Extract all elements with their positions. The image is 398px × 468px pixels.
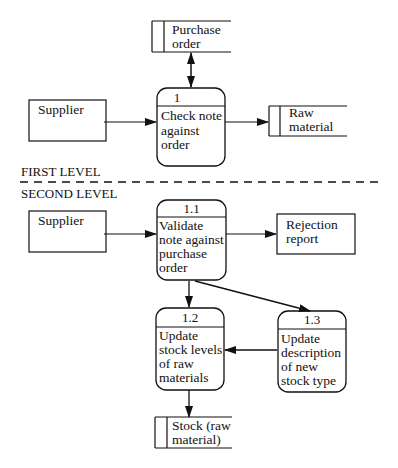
- store-purchase-order-label-2: order: [172, 37, 200, 51]
- process-1-1-line-1: Validate: [159, 219, 203, 233]
- entity-rejection-report-label-1: Rejection: [286, 218, 338, 232]
- process-1-2-line-3: of raw: [159, 357, 194, 371]
- store-stock-label-2: material): [172, 433, 221, 447]
- entity-rejection-report-label-2: report: [286, 232, 318, 246]
- process-1-1-line-3: purchase: [159, 247, 207, 261]
- process-1-3-line-2: description: [281, 346, 341, 360]
- process-1-3-line-1: Update: [281, 332, 320, 346]
- store-stock-label-1: Stock (raw: [172, 419, 231, 433]
- process-1-2-line-1: Update: [159, 329, 198, 343]
- process-1-1-line-4: order: [159, 261, 187, 275]
- entity-supplier-2-label: Supplier: [38, 214, 84, 228]
- process-1-line-3: order: [161, 138, 189, 152]
- process-1-2-id: 1.2: [156, 311, 224, 325]
- entity-supplier-1-label: Supplier: [38, 103, 84, 117]
- process-1-line-2: against: [161, 124, 199, 138]
- process-1-3-line-4: stock type: [281, 374, 336, 388]
- process-1-2-line-4: materials: [159, 371, 208, 385]
- flow-process-1-1-process-1-3: [195, 281, 310, 311]
- process-1-2-line-2: stock levels: [159, 343, 222, 357]
- store-raw-material-label-1: Raw: [289, 106, 314, 120]
- second-level-label: SECOND LEVEL: [21, 187, 117, 201]
- store-purchase-order-label-1: Purchase: [172, 23, 221, 37]
- process-1-1-line-2: note against: [159, 233, 224, 247]
- process-1-3-line-3: of new: [281, 360, 318, 374]
- process-1-3-id: 1.3: [278, 313, 346, 327]
- first-level-label: FIRST LEVEL: [21, 165, 101, 179]
- store-raw-material-label-2: material: [289, 120, 333, 134]
- process-1-line-1: Check note: [161, 109, 222, 123]
- process-1-1-id: 1.1: [157, 202, 226, 216]
- process-1-id: 1: [157, 91, 197, 105]
